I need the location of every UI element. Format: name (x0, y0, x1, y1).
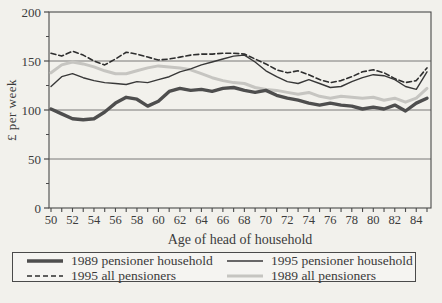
y-axis-title: £ per week (4, 60, 20, 160)
y-tick-label: 200 (22, 5, 42, 20)
x-axis-title: Age of head of household (49, 232, 431, 248)
x-tick-label: 60 (152, 213, 165, 227)
legend-box: 1989 pensioner households1995 pensioner … (12, 252, 416, 282)
legend-item: 1989 all pensioners (213, 268, 413, 283)
x-tick-label: 74 (303, 213, 316, 227)
legend-line-sample (225, 256, 265, 266)
x-tick-label: 64 (195, 213, 208, 227)
series-line-1 (51, 88, 427, 120)
legend-line-sample (225, 271, 265, 281)
y-tick-label: 100 (22, 103, 42, 118)
x-tick-label: 78 (346, 213, 359, 227)
x-tick-label: 70 (260, 213, 273, 227)
x-tick-label: 72 (281, 213, 294, 227)
legend-item: 1995 pensioner households (213, 253, 413, 268)
x-tick-label: 76 (324, 213, 337, 227)
x-tick-label: 84 (410, 213, 423, 227)
legend-item: 1995 all pensioners (13, 268, 213, 283)
y-tick-label: 150 (22, 54, 42, 69)
x-tick-label: 62 (174, 213, 187, 227)
legend-line-sample (25, 271, 65, 281)
y-tick-label: 0 (35, 201, 42, 216)
series-line-3 (51, 62, 427, 102)
x-tick-label: 56 (109, 213, 122, 227)
x-tick-label: 50 (45, 213, 58, 227)
x-tick-label: 52 (66, 213, 79, 227)
x-tick-label: 58 (131, 213, 144, 227)
x-tick-label: 66 (217, 213, 230, 227)
legend-label: 1995 pensioner households (271, 254, 413, 268)
plot-area: 0501001502005052545658606264666870727476… (0, 0, 442, 250)
x-tick-label: 68 (238, 213, 251, 227)
legend-label: 1989 all pensioners (271, 269, 376, 283)
x-tick-label: 80 (367, 213, 380, 227)
legend-label: 1989 pensioner households (71, 254, 213, 268)
legend-label: 1995 all pensioners (71, 269, 176, 283)
legend-line-sample (25, 256, 65, 266)
legend-item: 1989 pensioner households (13, 253, 213, 268)
y-tick-label: 50 (28, 152, 41, 167)
x-tick-label: 54 (88, 213, 101, 227)
pensioner-income-chart: 0501001502005052545658606264666870727476… (0, 0, 442, 303)
x-tick-label: 82 (389, 213, 402, 227)
